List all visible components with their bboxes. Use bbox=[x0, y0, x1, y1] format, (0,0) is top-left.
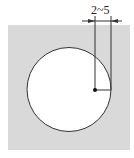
arrow-right-icon bbox=[111, 19, 118, 23]
center-point bbox=[93, 88, 97, 92]
arrow-left-icon bbox=[88, 19, 95, 23]
dimension-label: 2~5 bbox=[91, 4, 110, 16]
hole-offset-diagram bbox=[0, 0, 134, 158]
